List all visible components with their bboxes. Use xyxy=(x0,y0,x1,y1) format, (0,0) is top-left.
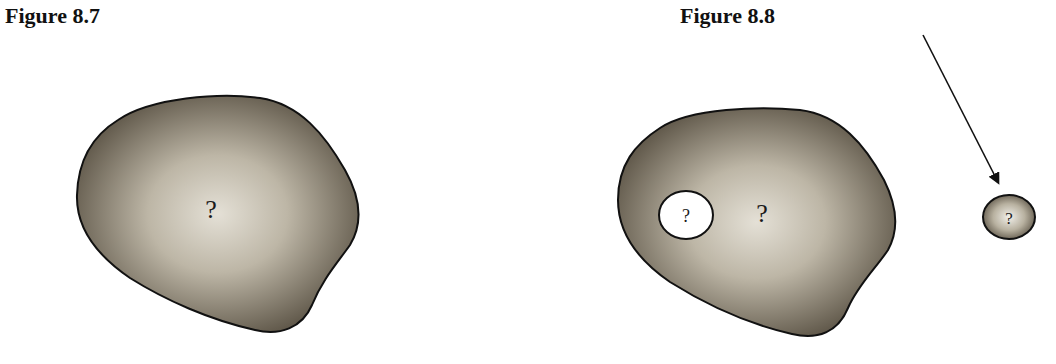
figure-8-8-question-mark: ? xyxy=(756,199,768,228)
figure-8-8-hole-question-mark: ? xyxy=(682,206,690,226)
figure-8-8: ? ? ? xyxy=(618,35,1035,336)
diagram-canvas: ? ? ? ? xyxy=(0,0,1056,364)
figure-8-7: ? xyxy=(77,96,359,332)
figure-8-7-region xyxy=(77,96,359,332)
figure-8-7-question-mark: ? xyxy=(205,195,217,224)
arrow xyxy=(923,35,998,182)
fragment-question-mark: ? xyxy=(1005,209,1013,228)
